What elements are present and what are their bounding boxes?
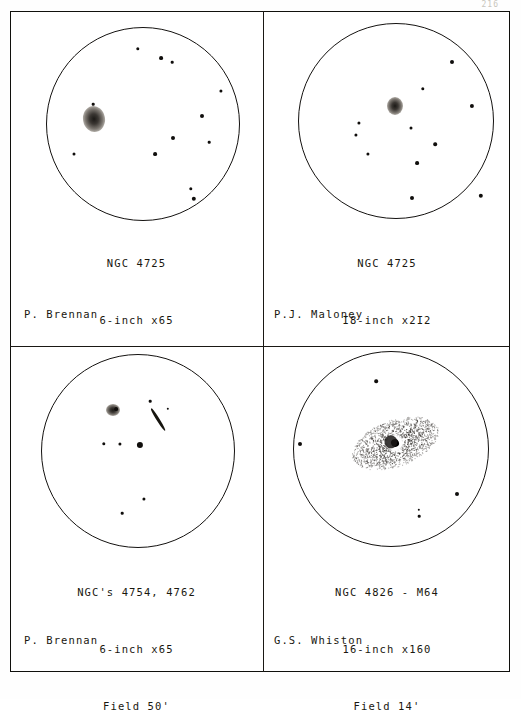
field-of-view-circle-2 — [41, 354, 235, 548]
field-size-2: Field 50' — [10, 697, 263, 714]
star-dot — [433, 142, 437, 146]
galaxy-glow — [387, 97, 403, 115]
observer-name-1: P.J. Maloney — [274, 308, 363, 320]
object-name-2: NGC's 4754, 4762 — [10, 583, 263, 602]
star-dot — [208, 141, 211, 144]
object-name-0: NGC 4725 — [10, 254, 263, 273]
observation-panel-ngc4725-6inch: NGC 4725 6-inch x65 Field 50' P. Brennan — [10, 11, 263, 346]
field-size-3: Field 14' — [264, 697, 510, 714]
star-dot — [153, 152, 157, 156]
star-dot — [374, 379, 378, 383]
panel-caption-2: NGC's 4754, 4762 6-inch x65 Field 50' — [10, 545, 263, 714]
star-dot — [298, 442, 302, 446]
observer-name-2: P. Brennan — [24, 634, 98, 646]
star-dot — [92, 103, 95, 106]
observer-name-3: G.S. Whiston — [274, 634, 363, 646]
object-name-3: NGC 4826 - M64 — [264, 583, 510, 602]
star-dot — [450, 60, 454, 64]
star-dot — [455, 492, 459, 496]
observation-panel-ngc4725-18inch: NGC 4725 I8-inch x2I2 Field I2' P.J. Mal… — [264, 11, 510, 346]
star-dot — [410, 196, 414, 200]
field-of-view-circle-0 — [46, 27, 240, 221]
star-dot — [418, 515, 421, 518]
observation-panel-ngc4754-4762: NGC's 4754, 4762 6-inch x65 Field 50' P.… — [10, 347, 263, 672]
star-dot — [73, 153, 76, 156]
star-dot — [159, 56, 163, 60]
observer-name-0: P. Brennan — [24, 308, 98, 320]
object-name-1: NGC 4725 — [264, 254, 510, 273]
star-dot — [479, 194, 483, 198]
panel-caption-3: NGC 4826 - M64 16-inch x160 Field 14' — [264, 545, 510, 714]
star-dot — [149, 400, 152, 403]
star-dot — [200, 114, 204, 118]
star-dot — [410, 127, 413, 130]
observation-panel-ngc4826-m64: NGC 4826 - M64 16-inch x160 Field 14' G.… — [264, 347, 510, 672]
star-dot — [415, 161, 419, 165]
field-of-view-circle-1 — [298, 23, 494, 219]
page-number-faint: 216 — [482, 0, 499, 9]
star-dot — [121, 512, 124, 515]
star-dot — [171, 61, 174, 64]
star-dot — [114, 407, 118, 411]
star-dot — [171, 136, 175, 140]
